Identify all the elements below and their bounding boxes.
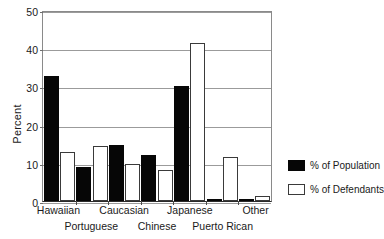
legend-swatch [288,160,305,171]
y-axis-title: Percent [11,79,23,169]
bar[interactable] [158,170,173,201]
legend-item[interactable]: % of Defendants [288,184,374,195]
y-tick-label: 20 [26,121,38,133]
bar[interactable] [174,86,189,201]
bar-group [108,12,141,201]
legend-item[interactable]: % of Population [288,160,374,171]
bar-group [76,12,109,201]
bar[interactable] [190,43,205,201]
plot-area: 01020304050 [42,11,272,202]
y-tick-label: 40 [26,44,38,56]
x-tick-label: Other [242,204,268,216]
bar[interactable] [239,199,254,201]
bar[interactable] [93,146,108,201]
bar-slot [141,12,157,201]
bar-slot [222,12,238,201]
bar[interactable] [44,76,59,201]
bar-group [206,12,239,201]
x-tick-label: Portuguese [64,220,118,232]
x-tick-label: Chinese [138,220,177,232]
bar-slot [206,12,222,201]
bar-slot [157,12,173,201]
bar-group [173,12,206,201]
bar-slot [190,12,206,201]
bar[interactable] [255,196,270,201]
bar-slot [59,12,75,201]
chart-legend: % of Population% of Defendants [288,160,374,208]
bar-slot [108,12,124,201]
bar[interactable] [60,152,75,201]
x-tick-label: Hawaiian [37,204,80,216]
x-tick-label: Japanese [167,204,213,216]
bar-slot [92,12,108,201]
legend-swatch [288,184,305,195]
bar-slot [173,12,189,201]
chart-title-cropped [46,0,256,4]
bar-group [238,12,271,201]
x-tick-label: Caucasian [99,204,149,216]
bar-slot [43,12,59,201]
bar-slot [238,12,254,201]
bar[interactable] [109,145,124,201]
bar-group [43,12,76,201]
y-tick-label: 30 [26,82,38,94]
bar-slot [255,12,271,201]
bar[interactable] [207,199,222,201]
x-tick-label: Puerto Rican [192,220,253,232]
legend-label: % of Defendants [310,184,384,195]
y-tick-label: 10 [26,159,38,171]
bar[interactable] [125,164,140,201]
bar[interactable] [223,157,238,201]
bar-slot [124,12,140,201]
x-axis-tick-labels: HawaiianPortugueseCaucasianChineseJapane… [42,204,272,238]
bar[interactable] [76,167,91,201]
bar-group [141,12,174,201]
bar-groups [43,12,271,201]
y-tick-label: 50 [26,6,38,18]
bar[interactable] [141,155,156,201]
legend-label: % of Population [310,160,380,171]
bar-slot [76,12,92,201]
